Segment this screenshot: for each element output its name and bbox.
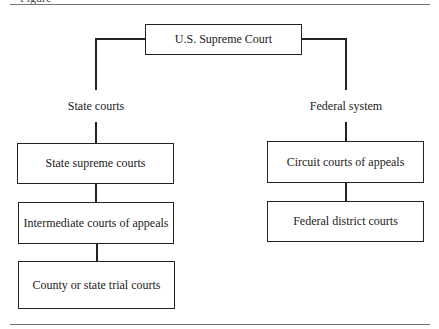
connector-supreme-to-intermediate bbox=[95, 184, 97, 202]
branch-label-federal-system: Federal system bbox=[310, 99, 382, 114]
node-label: Circuit courts of appeals bbox=[287, 155, 405, 170]
connector-root-to-state-vertical bbox=[95, 38, 97, 90]
node-label: U.S. Supreme Court bbox=[175, 32, 272, 47]
connector-federal-label-to-circuit bbox=[345, 122, 347, 141]
branch-label-state-courts: State courts bbox=[68, 99, 124, 114]
node-county-or-state-trial-courts: County or state trial courts bbox=[18, 261, 175, 309]
connector-circuit-to-district bbox=[345, 183, 347, 201]
node-circuit-courts-of-appeals: Circuit courts of appeals bbox=[267, 141, 424, 183]
connector-root-to-federal-vertical bbox=[345, 38, 347, 90]
node-federal-district-courts: Federal district courts bbox=[267, 201, 424, 242]
connector-root-to-state bbox=[95, 38, 145, 40]
bottom-rule bbox=[10, 324, 430, 325]
node-label: State supreme courts bbox=[46, 156, 146, 171]
figure-caption-fragment: Figure bbox=[20, 0, 51, 6]
node-label: County or state trial courts bbox=[33, 278, 161, 293]
connector-intermediate-to-trial bbox=[96, 244, 98, 261]
node-intermediate-courts-of-appeals: Intermediate courts of appeals bbox=[18, 202, 174, 244]
node-label: Intermediate courts of appeals bbox=[24, 216, 169, 231]
node-label: Federal district courts bbox=[293, 214, 398, 229]
node-us-supreme-court: U.S. Supreme Court bbox=[145, 24, 302, 55]
connector-root-to-federal bbox=[302, 38, 346, 40]
connector-state-label-to-supreme bbox=[95, 122, 97, 143]
node-state-supreme-courts: State supreme courts bbox=[17, 143, 174, 184]
top-rule bbox=[10, 4, 430, 5]
